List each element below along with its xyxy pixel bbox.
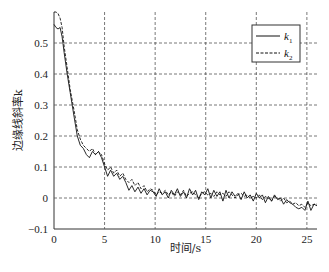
x-tick-label: 20: [251, 233, 263, 245]
x-tick-label: 25: [301, 233, 313, 245]
x-axis-label: 时间/s: [170, 242, 202, 255]
y-tick-label: 0.2: [34, 130, 48, 142]
y-tick-label: 0.5: [34, 37, 48, 49]
y-tick-label: 0.4: [34, 68, 48, 80]
x-tick-label: 5: [102, 233, 108, 245]
axis-ticks: 0510152025−0.100.10.20.30.40.5: [28, 37, 313, 245]
line-chart: 0510152025−0.100.10.20.30.40.5 时间/s 边缘线斜…: [0, 0, 329, 272]
legend: k1k2: [252, 25, 300, 62]
y-tick-label: 0.3: [34, 99, 48, 111]
y-tick-label: −0.1: [28, 223, 48, 235]
x-tick-label: 0: [51, 233, 57, 245]
y-tick-label: 0.1: [34, 161, 48, 173]
legend-box: [252, 25, 300, 62]
x-tick-label: 10: [150, 233, 162, 245]
y-tick-label: 0: [43, 192, 49, 204]
x-tick-label: 15: [200, 233, 212, 245]
y-axis-label: 边缘线斜率k: [11, 89, 25, 151]
